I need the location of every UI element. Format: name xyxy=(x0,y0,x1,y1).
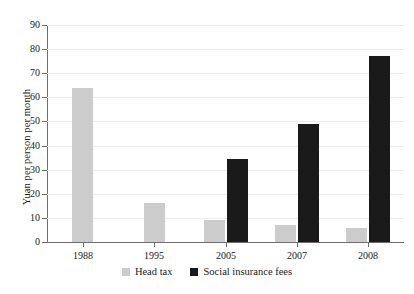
y-tick-label: 60 xyxy=(0,92,40,102)
y-tick-label: 70 xyxy=(0,68,40,78)
bar-social-insurance-fees-2008 xyxy=(369,56,390,242)
gridline xyxy=(47,25,404,26)
bar-social-insurance-fees-2007 xyxy=(298,124,319,242)
x-tick-mark xyxy=(154,242,155,247)
y-tick-label: 90 xyxy=(0,20,40,30)
chart-legend: Head taxSocial insurance fees xyxy=(0,266,414,277)
legend-swatch-icon xyxy=(122,268,130,276)
y-tick-label: 50 xyxy=(0,116,40,126)
y-tick-mark xyxy=(42,25,47,26)
y-tick-mark xyxy=(42,97,47,98)
legend-item-social: Social insurance fees xyxy=(190,266,292,277)
gridline xyxy=(47,146,404,147)
gridline xyxy=(47,170,404,171)
gridline xyxy=(47,97,404,98)
y-tick-mark xyxy=(42,194,47,195)
bar-head-tax-1988 xyxy=(72,88,93,242)
y-tick-mark xyxy=(42,49,47,50)
y-tick-label: 0 xyxy=(0,237,40,247)
gridline xyxy=(47,121,404,122)
x-tick-label: 2007 xyxy=(267,250,327,262)
x-tick-mark xyxy=(297,242,298,247)
y-tick-mark xyxy=(42,170,47,171)
gridline xyxy=(47,194,404,195)
x-tick-label: 2005 xyxy=(196,250,256,262)
x-tick-mark xyxy=(226,242,227,247)
bar-social-insurance-fees-2005 xyxy=(227,159,248,242)
y-tick-label: 10 xyxy=(0,213,40,223)
y-tick-label: 30 xyxy=(0,165,40,175)
x-tick-mark xyxy=(368,242,369,247)
y-tick-label: 40 xyxy=(0,141,40,151)
x-tick-mark xyxy=(83,242,84,247)
bar-head-tax-2008 xyxy=(346,228,367,242)
gridline xyxy=(47,73,404,74)
y-tick-label: 80 xyxy=(0,44,40,54)
bar-head-tax-2007 xyxy=(275,225,296,242)
legend-swatch-icon xyxy=(190,268,198,276)
y-tick-mark xyxy=(42,146,47,147)
y-tick-mark xyxy=(42,121,47,122)
gridline xyxy=(47,218,404,219)
plot-area xyxy=(47,25,404,242)
y-tick-label: 20 xyxy=(0,189,40,199)
bar-head-tax-2005 xyxy=(204,220,225,242)
x-tick-label: 1988 xyxy=(53,250,113,262)
y-tick-mark xyxy=(42,73,47,74)
x-tick-label: 1995 xyxy=(124,250,184,262)
y-tick-mark xyxy=(42,218,47,219)
bar-chart: Yuan per person per month 01020304050607… xyxy=(0,0,414,294)
bar-head-tax-1995 xyxy=(144,203,165,242)
legend-label: Head tax xyxy=(135,266,173,277)
legend-label: Social insurance fees xyxy=(203,266,292,277)
y-tick-mark xyxy=(42,242,47,243)
gridline xyxy=(47,49,404,50)
legend-item-head-tax: Head tax xyxy=(122,266,173,277)
x-tick-label: 2008 xyxy=(338,250,398,262)
